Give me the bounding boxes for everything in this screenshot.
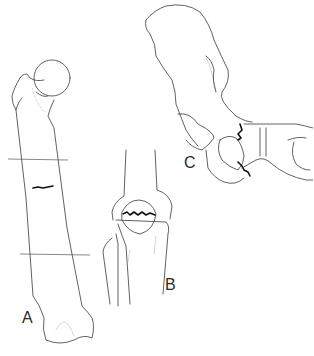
- bone-drawings: [0, 0, 313, 356]
- panel-label-a: A: [22, 310, 33, 326]
- panel-label-b: B: [165, 277, 176, 293]
- femur-drawing: [8, 60, 94, 343]
- knee-drawing: [103, 150, 172, 306]
- foot-drawing: [146, 5, 314, 183]
- panel-label-c: C: [184, 155, 196, 171]
